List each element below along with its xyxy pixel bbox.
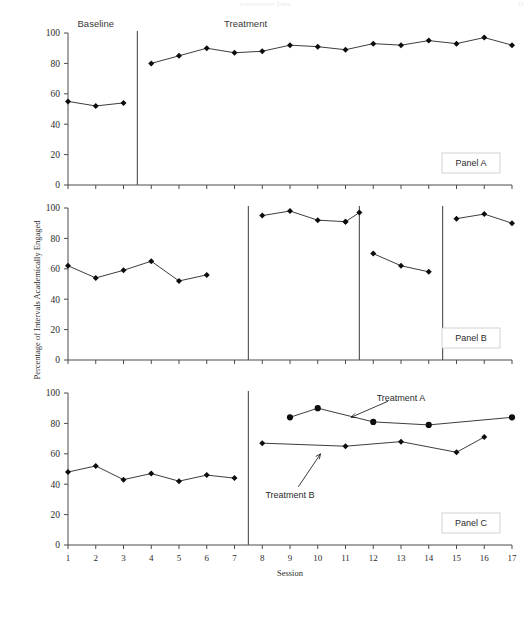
annotation-label: Treatment B: [265, 490, 314, 500]
panel-a-y-tick-label: 40: [51, 120, 61, 130]
data-point: [370, 41, 376, 47]
data-point: [343, 443, 349, 449]
data-point: [398, 42, 404, 48]
x-tick-label: 3: [121, 553, 126, 563]
data-point: [148, 471, 154, 477]
x-tick-label: 5: [177, 553, 182, 563]
panel-b-y-tick-label: 100: [46, 203, 61, 213]
x-tick-label: 10: [313, 553, 323, 563]
panel-a-y-tick-label: 20: [51, 150, 61, 160]
x-tick-label: 11: [341, 553, 350, 563]
data-point: [148, 60, 154, 66]
panel-c-label: Panel C: [455, 518, 488, 528]
annotation-arrow: [298, 454, 320, 487]
data-point: [121, 477, 127, 483]
data-point: [204, 272, 210, 278]
x-tick-label: 4: [149, 553, 154, 563]
data-point: [315, 405, 321, 411]
series-line: [151, 38, 512, 64]
panel-c-y-tick-label: 40: [51, 480, 61, 490]
data-point: [204, 45, 210, 51]
panel-c-y-tick-label: 0: [55, 540, 60, 550]
data-point: [481, 35, 487, 41]
annotation-arrow: [351, 401, 388, 417]
data-point: [370, 419, 376, 425]
data-point: [259, 48, 265, 54]
data-point: [426, 422, 432, 428]
data-point: [65, 469, 71, 475]
x-tick-label: 6: [205, 553, 210, 563]
series-line: [262, 211, 345, 222]
data-point: [259, 213, 265, 219]
data-point: [509, 220, 515, 226]
x-tick-label: 16: [480, 553, 490, 563]
panel-b-label: Panel B: [455, 333, 487, 343]
panel-b-y-tick-label: 80: [51, 234, 61, 244]
x-tick-label: 17: [508, 553, 518, 563]
data-point: [509, 414, 515, 420]
panel-c-y-tick-label: 80: [51, 419, 61, 429]
panel-b-y-tick-label: 0: [55, 355, 60, 365]
data-point: [93, 275, 99, 281]
phase-label: Baseline: [78, 18, 114, 29]
data-point: [204, 472, 210, 478]
x-tick-label: 1: [66, 553, 71, 563]
data-point: [481, 211, 487, 217]
data-point: [343, 219, 349, 225]
x-tick-label: 13: [397, 553, 407, 563]
data-point: [426, 269, 432, 275]
data-point: [93, 463, 99, 469]
multiple-baseline-chart: Percentage of Intervals Academically Eng…: [0, 0, 530, 619]
panel-a-label: Panel A: [455, 158, 486, 168]
panel-c-y-tick-label: 20: [51, 510, 61, 520]
data-point: [343, 47, 349, 53]
data-point: [148, 258, 154, 264]
data-point: [426, 38, 432, 44]
data-point: [509, 42, 515, 48]
data-point: [287, 208, 293, 214]
data-point: [315, 217, 321, 223]
panel-c-y-tick-label: 60: [51, 449, 61, 459]
data-point: [65, 263, 71, 269]
series-line: [290, 408, 512, 425]
phase-label: Treatment: [224, 18, 267, 29]
data-point: [232, 50, 238, 56]
x-tick-label: 9: [288, 553, 293, 563]
data-point: [454, 449, 460, 455]
panel-b-y-tick-label: 60: [51, 264, 61, 274]
x-tick-label: 14: [424, 553, 434, 563]
panel-a-y-tick-label: 60: [51, 89, 61, 99]
y-axis-title: Percentage of Intervals Academically Eng…: [32, 220, 42, 380]
data-point: [356, 210, 362, 216]
x-axis-title: Session: [277, 568, 304, 578]
data-point: [398, 263, 404, 269]
data-point: [176, 478, 182, 484]
data-point: [259, 440, 265, 446]
data-point: [454, 216, 460, 222]
series-line: [262, 437, 484, 452]
data-point: [176, 278, 182, 284]
annotation-label: Treatment A: [377, 393, 426, 403]
data-point: [287, 414, 293, 420]
data-point: [121, 100, 127, 106]
data-point: [481, 434, 487, 440]
x-tick-label: 8: [260, 553, 265, 563]
panel-b-y-tick-label: 20: [51, 325, 61, 335]
series-line: [346, 213, 360, 222]
x-tick-label: 15: [452, 553, 462, 563]
x-tick-label: 12: [369, 553, 378, 563]
data-point: [93, 103, 99, 109]
panel-a-y-tick-label: 0: [55, 180, 60, 190]
panel-a-y-tick-label: 100: [46, 28, 61, 38]
data-point: [121, 267, 127, 273]
data-point: [370, 251, 376, 257]
panel-c-y-tick-label: 100: [46, 388, 61, 398]
data-point: [398, 439, 404, 445]
x-tick-label: 7: [232, 553, 237, 563]
data-point: [232, 475, 238, 481]
panel-b-y-tick-label: 40: [51, 295, 61, 305]
data-point: [315, 44, 321, 50]
data-point: [287, 42, 293, 48]
panel-a-y-tick-label: 80: [51, 59, 61, 69]
data-point: [176, 53, 182, 59]
